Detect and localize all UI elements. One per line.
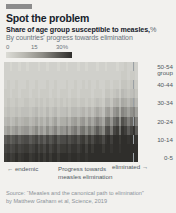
age-axis-tick: [133, 117, 138, 126]
legend-tick-0: 0: [6, 44, 9, 50]
heatmap-row: [4, 117, 138, 126]
legend-tick-1: 15: [31, 44, 38, 50]
heatmap-row: [4, 126, 138, 135]
heatmap-row: [4, 62, 138, 71]
heatmap-row: [4, 135, 138, 144]
age-axis-tick: [133, 62, 138, 71]
age-axis-tick: [133, 153, 138, 162]
legend-ticks: 0 15 30%: [6, 44, 72, 52]
age-axis-labels: 50-5440-4430-3420-2410-140-5: [133, 62, 173, 162]
legend-tick-2: 30%: [56, 44, 68, 50]
annotation-endemic: ← endemic: [7, 165, 38, 172]
age-axis-label: 20-24: [154, 118, 173, 125]
heatmap-row: [4, 98, 138, 107]
annotation-eliminated: eliminated →: [112, 163, 148, 170]
chart-card: Spot the problem Share of age group susc…: [0, 0, 176, 213]
heatmap-plot: [4, 62, 138, 162]
legend-color-gradient-bar: [6, 52, 72, 58]
age-axis-label: 40-44: [154, 81, 173, 88]
annotation-progress-line1: Progress towards: [58, 165, 112, 173]
heatmap-row: [4, 80, 138, 89]
annotation-progress: Progress towards measles elimination: [58, 165, 112, 181]
heatmap-row: [4, 153, 138, 162]
source-note: Source: “Measles and the canonical path …: [6, 189, 144, 205]
heatmap-row: [4, 89, 138, 98]
age-axis-tick: [133, 98, 138, 107]
heatmap-row: [4, 144, 138, 153]
age-axis-tick: [133, 80, 138, 89]
source-note-line1: Source: “Measles and the canonical path …: [6, 189, 144, 197]
chart-subtitle-unit: %: [150, 25, 156, 34]
age-axis-label: 0-5: [161, 154, 173, 161]
chart-subtitle-secondary: By countries' progress towards eliminati…: [6, 34, 133, 41]
age-axis-tick: [133, 135, 138, 144]
chart-subtitle: Share of age group susceptible to measle…: [6, 25, 156, 34]
chart-subtitle-text: Share of age group susceptible to measle…: [6, 25, 150, 34]
heatmap-row: [4, 107, 138, 116]
age-axis-label: 50-54: [154, 63, 173, 70]
source-note-line2: by Matthew Graham et al, Science, 2019: [6, 197, 144, 205]
age-axis-label: 10-14: [154, 136, 173, 143]
annotation-progress-line2: measles elimination: [58, 173, 112, 181]
heatmap-row: [4, 71, 138, 80]
page-title: Spot the problem: [6, 12, 89, 24]
age-axis-label: 30-34: [154, 99, 173, 106]
section-tag: [6, 4, 32, 9]
